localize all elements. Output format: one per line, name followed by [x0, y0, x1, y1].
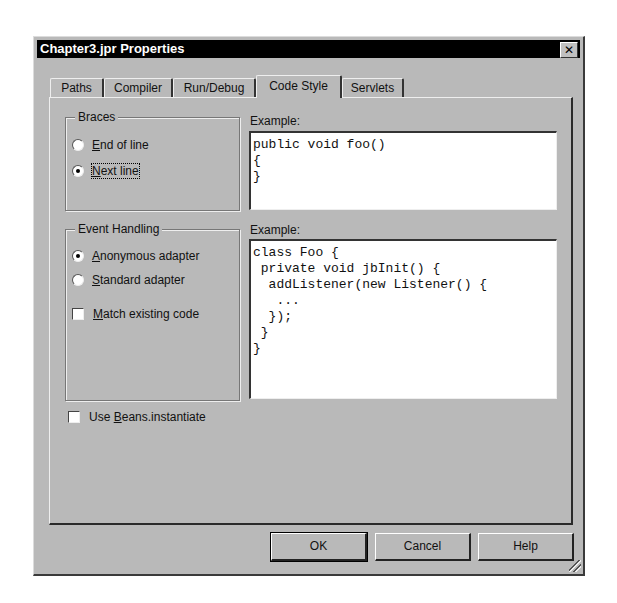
event-handling-group-label: Event Handling — [75, 222, 162, 236]
tab-label: Code Style — [269, 79, 328, 93]
window-title: Chapter3.jpr Properties — [40, 41, 185, 56]
radio-label: Standard adapter — [92, 273, 185, 287]
radio-label: End of line — [92, 138, 149, 152]
radio-label: Next line — [92, 164, 139, 178]
checkbox-icon — [68, 411, 80, 423]
radio-button-icon — [72, 139, 84, 151]
event-example-code: class Foo { private void jbInit() { addL… — [249, 239, 557, 399]
tab-code-style[interactable]: Code Style — [256, 75, 342, 98]
braces-example-code: public void foo() { } — [249, 131, 557, 210]
tab-label: Compiler — [114, 81, 162, 95]
tab-compiler[interactable]: Compiler — [104, 78, 173, 97]
title-bar[interactable]: Chapter3.jpr Properties ✕ — [37, 40, 580, 58]
radio-end-of-line[interactable]: End of line — [72, 138, 149, 152]
braces-group: Braces End of line Next line — [65, 117, 240, 211]
tab-paths[interactable]: Paths — [50, 78, 104, 97]
help-button[interactable]: Help — [478, 533, 574, 561]
tab-label: Servlets — [351, 81, 394, 95]
braces-group-label: Braces — [75, 110, 118, 124]
radio-button-checked-icon — [72, 165, 84, 177]
checkbox-label: Match existing code — [93, 307, 199, 321]
code-style-panel: Braces End of line Next line Example: pu… — [49, 97, 573, 525]
radio-button-icon — [72, 274, 84, 286]
radio-label: Anonymous adapter — [92, 249, 199, 263]
braces-example-label: Example: — [250, 114, 300, 128]
tab-run-debug[interactable]: Run/Debug — [173, 78, 256, 97]
tab-servlets[interactable]: Servlets — [342, 78, 404, 97]
cancel-button[interactable]: Cancel — [375, 533, 471, 561]
close-icon: ✕ — [564, 43, 574, 57]
ok-button[interactable]: OK — [271, 533, 367, 561]
radio-next-line[interactable]: Next line — [72, 164, 139, 178]
checkbox-label: Use Beans.instantiate — [89, 410, 206, 424]
properties-dialog: Chapter3.jpr Properties ✕ Paths Compiler… — [33, 36, 585, 576]
radio-anonymous-adapter[interactable]: Anonymous adapter — [72, 249, 199, 263]
radio-button-checked-icon — [72, 250, 84, 262]
checkbox-match-existing-code[interactable]: Match existing code — [72, 307, 199, 321]
event-example-label: Example: — [250, 223, 300, 237]
close-button[interactable]: ✕ — [560, 42, 578, 58]
checkbox-icon — [72, 308, 84, 320]
radio-standard-adapter[interactable]: Standard adapter — [72, 273, 185, 287]
resize-grip-icon[interactable] — [569, 560, 581, 572]
checkbox-use-beans-instantiate[interactable]: Use Beans.instantiate — [68, 410, 206, 424]
tab-label: Run/Debug — [184, 81, 245, 95]
event-handling-group: Event Handling Anonymous adapter Standar… — [65, 229, 240, 401]
tab-label: Paths — [61, 81, 92, 95]
